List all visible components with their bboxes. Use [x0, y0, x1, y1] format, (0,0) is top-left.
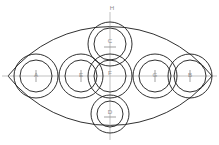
vertex-label-h: H [110, 4, 114, 11]
circle-a-label: A [34, 71, 39, 78]
circle-e-label: E [79, 71, 83, 78]
circle-b-label: B [188, 71, 192, 78]
diagram-canvas: A E F G B [0, 0, 219, 145]
circle-group-d: D [91, 95, 129, 133]
vertex-label-group-h: H [110, 4, 114, 11]
circle-g-label: G [153, 71, 158, 78]
circle-c-label: C [108, 37, 113, 44]
circle-d-label: D [108, 108, 113, 115]
circle-lens-diagram: A E F G B [0, 0, 219, 145]
circle-f-label: F [108, 69, 112, 76]
